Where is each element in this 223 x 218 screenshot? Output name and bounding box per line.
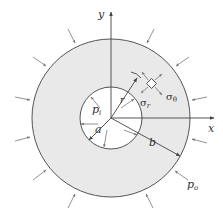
y-axis-label: y xyxy=(97,8,105,21)
outer-radius-label: b xyxy=(149,136,156,149)
inner-radius-label: a xyxy=(95,123,102,136)
x-axis-label: x xyxy=(208,122,215,135)
thick-cylinder-diagram: y x pi po a b r σr σθ xyxy=(0,0,223,218)
radius-r-label: r xyxy=(120,95,125,105)
outer-pressure-label: po xyxy=(187,178,198,192)
